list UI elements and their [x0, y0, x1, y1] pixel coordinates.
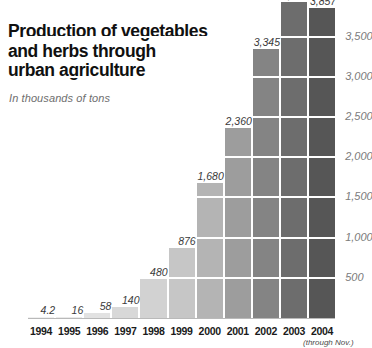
- bar-label-1998: 480: [131, 266, 167, 278]
- bar-label-1999: 876: [160, 235, 196, 247]
- ytick-2000: 2,000: [345, 150, 372, 162]
- xtick-1994: 1994: [26, 325, 56, 337]
- xtick-2000: 2000: [195, 325, 225, 337]
- xtick-1995: 1995: [54, 325, 84, 337]
- xtick-2001: 2001: [223, 325, 253, 337]
- bar-label-2000: 1,680: [188, 170, 224, 182]
- bar-2003: [281, 2, 307, 318]
- xtick-1996: 1996: [82, 325, 112, 337]
- ytick-1000: 1,000: [345, 231, 372, 243]
- ytick-3500: 3,500: [345, 30, 372, 42]
- chart-figure: Production of vegetables and herbs throu…: [0, 0, 372, 348]
- x-axis-line: [28, 318, 335, 319]
- bar-label-2004: 3,857: [300, 0, 336, 7]
- bar-2000: [197, 183, 223, 318]
- bar-1997: [112, 307, 138, 318]
- bar-label-2002: 3,345: [244, 36, 280, 48]
- xtick-2004: 2004: [307, 325, 337, 337]
- xtick-2002: 2002: [251, 325, 281, 337]
- bar-1998: [140, 279, 166, 318]
- ytick-2500: 2,500: [345, 110, 372, 122]
- gridline: [28, 277, 335, 279]
- ytick-500: 500: [345, 271, 363, 283]
- bar-label-2001: 2,360: [216, 115, 252, 127]
- bar-label-1997: 140: [103, 294, 139, 306]
- plot-area: 4.21994161995581996140199748019988761999…: [0, 0, 372, 348]
- gridline: [28, 156, 335, 158]
- bar-2004: [309, 8, 335, 318]
- xtick-1997: 1997: [110, 325, 140, 337]
- gridline: [28, 116, 335, 118]
- xtick-1998: 1998: [138, 325, 168, 337]
- ytick-3000: 3,000: [345, 70, 372, 82]
- xtick-2003: 2003: [279, 325, 309, 337]
- bar-1999: [169, 248, 195, 318]
- footnote-through-nov: (through Nov.): [303, 338, 354, 347]
- gridline: [28, 196, 335, 198]
- gridline: [28, 76, 335, 78]
- xtick-1999: 1999: [167, 325, 197, 337]
- gridline: [28, 36, 335, 38]
- ytick-1500: 1,500: [345, 190, 372, 202]
